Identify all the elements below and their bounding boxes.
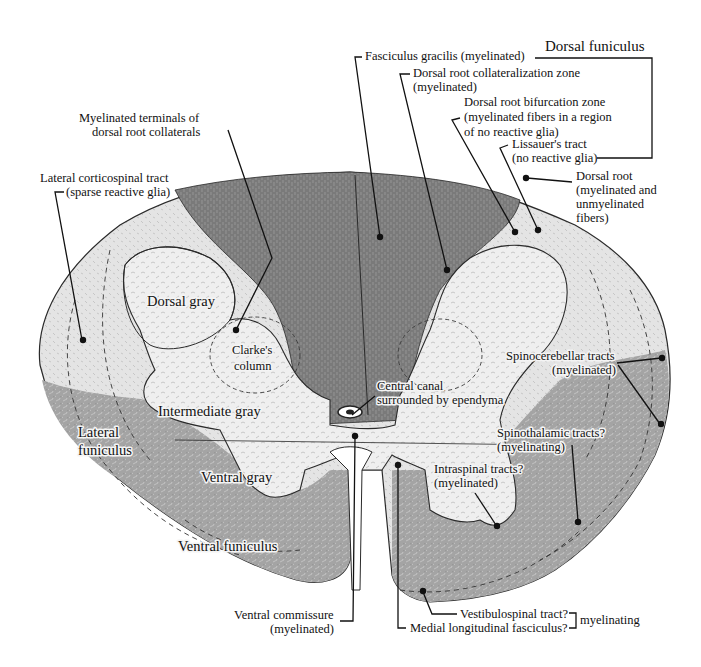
label-dorsal-root-line3: unmyelinated — [576, 197, 645, 211]
label-bifurcation-line2: (myelinated fibers in a region — [464, 110, 613, 124]
region-ventral-gray: Ventral gray — [201, 469, 273, 485]
label-terminals-line1: Myelinated terminals of — [79, 111, 200, 125]
region-clarkes-column-line2: column — [234, 359, 272, 373]
label-terminals-line2: dorsal root collaterals — [92, 125, 200, 139]
label-central-canal-line2: surrounded by ependyma — [377, 393, 504, 407]
region-clarkes-column-line1: Clarke's — [232, 343, 273, 357]
label-fasciculus-gracilis: Fasciculus gracilis (myelinated) — [365, 49, 525, 63]
label-lissauer-line1: Lissauer's tract — [512, 137, 587, 151]
region-intermediate-gray: Intermediate gray — [158, 403, 261, 419]
label-dorsal-root-line2: (myelinated and — [576, 183, 658, 197]
label-ventral-commissure-line1: Ventral commissure — [234, 608, 334, 622]
label-spinothalamic-line1: Spinothalamic tracts? — [497, 426, 605, 440]
label-corticospinal-line2: (sparse reactive glia) — [66, 185, 170, 199]
label-intraspinal-line2: (myelinated) — [434, 476, 498, 490]
label-collateralization-line1: Dorsal root collateralization zone — [413, 66, 580, 80]
label-bifurcation-line1: Dorsal root bifurcation zone — [464, 95, 606, 109]
label-spinocerebellar-line2: (myelinated) — [552, 363, 616, 377]
region-dorsal-gray: Dorsal gray — [147, 293, 216, 309]
label-collateralization-line2: (myelinated) — [413, 80, 477, 94]
label-ventral-commissure-line2: (myelinated) — [270, 622, 334, 636]
label-dorsal-funiculus: Dorsal funiculus — [545, 38, 645, 54]
label-dorsal-root-line1: Dorsal root — [576, 169, 633, 183]
label-spinothalamic-line2: (myelinating) — [497, 440, 565, 454]
region-lateral-funiculus-line2: funiculus — [78, 442, 132, 458]
label-vestibulospinal: Vestibulospinal tract? — [460, 607, 568, 621]
region-ventral-funiculus: Ventral funiculus — [178, 538, 278, 554]
label-lissauer-line2: (no reactive glia) — [512, 151, 597, 165]
label-central-canal-line1: Central canal — [377, 379, 444, 393]
label-myelinating-bracket: myelinating — [580, 613, 640, 627]
label-spinocerebellar-line1: Spinocerebellar tracts — [506, 349, 615, 363]
label-intraspinal-line1: Intraspinal tracts? — [434, 462, 524, 476]
spinal-cord-diagram: Dorsal gray Clarke's column Intermediate… — [0, 0, 701, 667]
label-corticospinal-line1: Lateral corticospinal tract — [40, 171, 169, 185]
label-medial-longitudinal: Medial longitudinal fasciculus? — [410, 621, 568, 635]
region-lateral-funiculus-line1: Lateral — [78, 424, 119, 440]
label-dorsal-root-line4: fibers) — [576, 211, 609, 225]
